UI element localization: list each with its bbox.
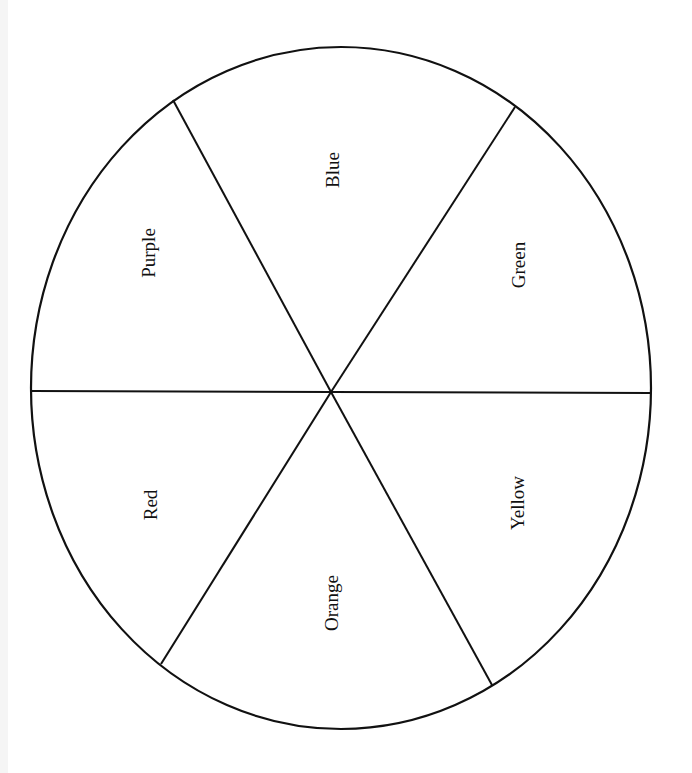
segment-label-yellow: Yellow (507, 476, 528, 530)
segment-label-blue: Blue (322, 152, 343, 188)
spoke-line (331, 392, 651, 393)
spoke-line (32, 391, 331, 392)
spoke-line (173, 100, 331, 392)
spoke-line (161, 392, 331, 664)
spoke-line (331, 392, 492, 685)
segment-label-green: Green (508, 241, 529, 288)
segment-label-orange: Orange (321, 575, 342, 631)
color-wheel: Blue Green Yellow Orange Red Purple (0, 0, 692, 773)
spoke-line (331, 107, 515, 392)
segment-label-purple: Purple (138, 228, 159, 278)
segment-label-red: Red (140, 489, 161, 520)
